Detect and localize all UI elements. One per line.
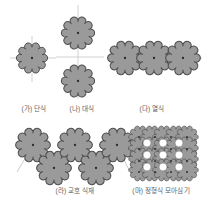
void-hole: [175, 139, 183, 147]
panel-e-formal-massing: [129, 126, 199, 181]
void-hole: [175, 163, 183, 171]
void-hole: [143, 163, 151, 171]
caption-paired-planting: (나) 대식: [56, 103, 108, 113]
void-hole: [175, 151, 183, 159]
void-hole: [159, 163, 167, 171]
panel-b-paired-planting: [56, 5, 104, 99]
void-hole: [143, 151, 151, 159]
caption-row-planting: (다) 열식: [122, 103, 182, 113]
void-hole: [143, 139, 151, 147]
tree-center-dot: [31, 57, 33, 59]
caption-single-planting: (가) 단식: [8, 103, 60, 113]
tree-center-dot: [74, 144, 76, 146]
tree-center-dot: [95, 167, 97, 169]
tree-center-dot: [77, 80, 79, 82]
tree-center-dot: [124, 57, 126, 59]
panel-d-alternating-planting: [16, 128, 135, 184]
tree-center-dot: [32, 144, 34, 146]
panel-c-row-planting: [108, 41, 202, 74]
tree-center-dot: [153, 57, 155, 59]
planting-pattern-figure: (가) 단식 (나) 대식 (다) 열식 (라) 교호 식재 (마) 정형식 모…: [0, 0, 212, 211]
void-hole: [159, 151, 167, 159]
panel-a-single-planting: [10, 36, 56, 82]
caption-alternating-planting: (라) 교호 식재: [38, 185, 112, 195]
tree-center-dot: [77, 32, 79, 34]
void-hole: [159, 139, 167, 147]
tree-center-dot: [182, 57, 184, 59]
massing-voids: [143, 139, 183, 171]
tree-center-dot: [116, 144, 118, 146]
tree-center-dot: [53, 167, 55, 169]
caption-formal-massing: (마) 정형식 모아심기: [118, 185, 204, 195]
